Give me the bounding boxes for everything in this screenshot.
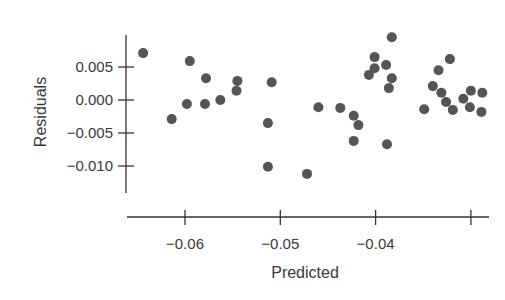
data-point — [185, 56, 195, 66]
data-point — [182, 99, 192, 109]
data-point — [441, 97, 451, 107]
data-point — [387, 73, 397, 83]
data-point — [167, 114, 177, 124]
x-axis: −0.06−0.05−0.04 Predicted — [127, 210, 489, 281]
data-point — [428, 81, 438, 91]
data-point — [436, 88, 446, 98]
y-axis-label: Residuals — [32, 77, 49, 147]
data-point — [201, 73, 211, 83]
x-axis-ticks: −0.06−0.05−0.04 — [166, 210, 471, 252]
data-point — [370, 52, 380, 62]
y-tick-label: −0.005 — [67, 124, 113, 141]
y-axis: 0.0050.000−0.005−0.010 Residuals — [32, 35, 134, 193]
y-axis-ticks: 0.0050.000−0.005−0.010 — [67, 58, 134, 174]
x-tick-label: −0.04 — [357, 235, 395, 252]
data-point — [384, 83, 394, 93]
data-point — [448, 105, 458, 115]
data-point — [263, 118, 273, 128]
x-tick-label: −0.06 — [166, 235, 204, 252]
data-point — [349, 111, 359, 121]
data-points — [138, 32, 487, 179]
data-point — [381, 60, 391, 70]
data-point — [138, 48, 148, 58]
y-tick-label: −0.010 — [67, 157, 113, 174]
data-point — [267, 77, 277, 87]
data-point — [465, 102, 475, 112]
data-point — [200, 99, 210, 109]
y-tick-label: 0.000 — [75, 91, 113, 108]
data-point — [232, 76, 242, 86]
data-point — [382, 139, 392, 149]
data-point — [419, 104, 429, 114]
data-point — [232, 86, 242, 96]
x-axis-label: Predicted — [271, 264, 339, 281]
data-point — [313, 102, 323, 112]
x-tick-label: −0.05 — [261, 235, 299, 252]
data-point — [387, 32, 397, 42]
data-point — [434, 65, 444, 75]
data-point — [477, 88, 487, 98]
data-point — [364, 70, 374, 80]
data-point — [445, 54, 455, 64]
data-point — [458, 94, 468, 104]
data-point — [302, 169, 312, 179]
data-point — [349, 136, 359, 146]
data-point — [476, 107, 486, 117]
data-point — [466, 86, 476, 96]
data-point — [353, 120, 363, 130]
data-point — [215, 95, 225, 105]
y-tick-label: 0.005 — [75, 58, 113, 75]
residual-scatter-plot: 0.0050.000−0.005−0.010 Residuals −0.06−0… — [0, 0, 505, 300]
data-point — [263, 162, 273, 172]
data-point — [335, 103, 345, 113]
